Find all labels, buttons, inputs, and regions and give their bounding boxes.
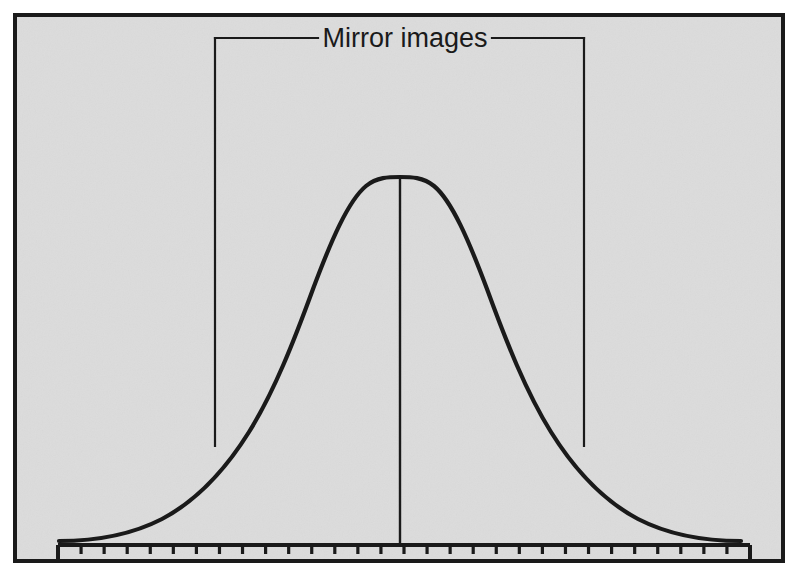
figure-container: Mirror images	[0, 0, 798, 575]
mirror-images-label: Mirror images	[322, 23, 487, 53]
normal-curve-figure: Mirror images	[0, 0, 798, 575]
